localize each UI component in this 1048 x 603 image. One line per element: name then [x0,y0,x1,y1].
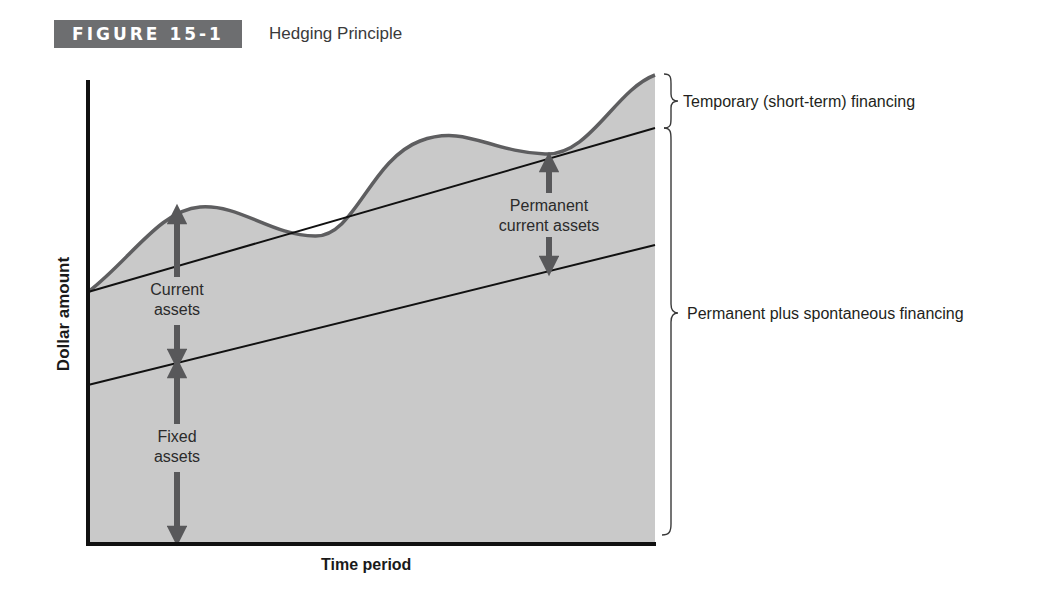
x-axis-title: Time period [321,556,411,574]
permanent-current-assets-label: Permanent current assets [489,196,609,236]
temporary-financing-label: Temporary (short-term) financing [683,92,915,112]
fixed-assets-label-line1: Fixed [137,427,217,447]
temporary-financing-brace [664,74,678,128]
permanent-current-label-line1: Permanent [489,196,609,216]
current-assets-label-line1: Current [137,280,217,300]
fixed-assets-label-line2: assets [137,447,217,467]
permanent-financing-brace [662,128,678,535]
permanent-financing-label: Permanent plus spontaneous financing [687,304,964,324]
y-axis-title: Dollar amount [54,257,74,371]
permanent-current-label-line2: current assets [489,216,609,236]
current-assets-label: Current assets [137,280,217,320]
fixed-assets-label: Fixed assets [137,427,217,467]
current-assets-label-line2: assets [137,300,217,320]
